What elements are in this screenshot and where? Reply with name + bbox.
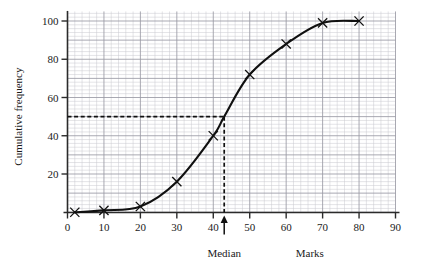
x-axis-tick-label: 0 [65, 221, 71, 233]
x-axis-tick-label: 50 [244, 221, 256, 233]
y-axis-tick-label: 40 [48, 130, 60, 142]
x-axis-tick-label: 10 [98, 221, 110, 233]
x-axis-tick-label: 20 [135, 221, 147, 233]
chart-canvas: 0102030405060708090 20406080100 Cumulati… [0, 0, 429, 271]
x-axis-tick-label: 30 [171, 221, 183, 233]
x-axis-tick-label: 40 [208, 221, 220, 233]
y-axis-tick-label: 60 [48, 92, 60, 104]
y-axis-tick-label: 80 [48, 53, 60, 65]
x-axis-title: Marks [296, 247, 324, 259]
y-axis-tick-label: 20 [48, 168, 60, 180]
x-axis-tick-label: 60 [281, 221, 293, 233]
y-axis-tick-label: 100 [42, 15, 59, 27]
cumulative-frequency-chart: 0102030405060708090 20406080100 Cumulati… [0, 0, 429, 271]
x-axis-tick-label: 80 [354, 221, 366, 233]
median-label: Median [207, 247, 241, 259]
y-axis-title: Cumulative frequency [12, 67, 24, 166]
x-axis-tick-label: 70 [317, 221, 329, 233]
x-axis-tick-label: 90 [390, 221, 402, 233]
